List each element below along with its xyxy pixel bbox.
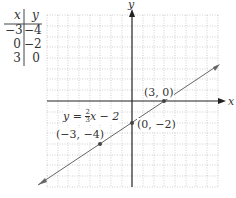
line-graph [38, 66, 217, 185]
point-0-neg2 [130, 121, 134, 125]
x-axis-label: x [228, 95, 234, 108]
point-neg3-neg4 [98, 142, 102, 146]
point-label: (3, 0) [144, 86, 174, 99]
point-label: (−3, −4) [56, 128, 104, 141]
line-arrow-icon [38, 178, 47, 185]
line-arrow-icon [213, 64, 220, 71]
graph [0, 0, 236, 198]
equation-label: y = 23x − 2 [63, 109, 119, 124]
x-axis-arrow-icon [218, 98, 226, 104]
point-label: (0, −2) [137, 118, 176, 131]
y-axis-label: y [128, 0, 134, 11]
point-3-0 [162, 99, 166, 103]
